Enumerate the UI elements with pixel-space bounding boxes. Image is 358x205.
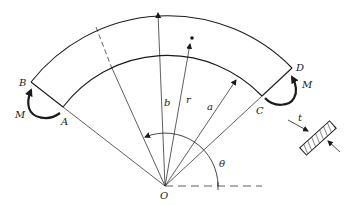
radial-lines [63,13,262,186]
thickness-arrow-bottom [328,141,340,152]
label-A: A [60,116,68,127]
end-face-left [31,82,63,107]
moment-right-arrow-icon [265,77,296,105]
label-b: b [164,97,170,108]
label-C: C [256,105,264,116]
label-r: r [186,94,192,105]
end-face-right [262,68,292,96]
label-t: t [298,112,303,123]
label-B: B [18,77,26,88]
point-at-r [190,36,194,40]
radius-a-line [165,80,236,186]
label-a: a [207,101,213,112]
inner-arc [63,55,262,107]
label-theta: θ [219,158,225,169]
label-O: O [160,190,168,201]
radial-line-OA [63,107,165,186]
radial-line-center-left [111,66,165,186]
label-M-right: M [301,79,313,90]
hatched-cross-section [300,121,336,155]
theta-arc-icon [145,133,218,186]
label-M-left: M [14,109,26,120]
curved-beam-diagram: B A C D O M M b r a θ t [0,0,358,205]
outer-arc [31,16,292,82]
radial-line-OC [165,96,262,186]
dashed-radial-line-outer [96,27,111,66]
moment-left-arrow-icon [28,90,60,118]
label-D: D [295,62,304,73]
cross-section-detail [288,120,340,155]
radius-r-line [165,44,190,186]
